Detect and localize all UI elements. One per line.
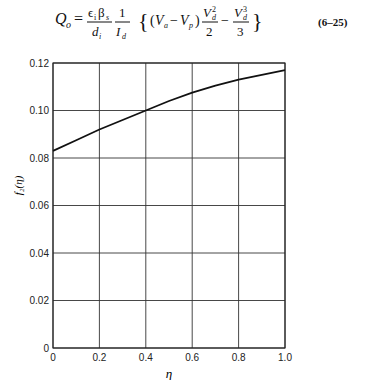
y-tick-label: 0 [43,343,49,354]
y-tick-label: 0.10 [30,105,50,116]
y-tick-label: 0.08 [30,153,50,164]
chart: 00.20.40.60.81.000.020.040.060.080.100.1… [0,0,369,380]
y-tick-label: 0.06 [30,200,50,211]
x-tick-label: 1.0 [278,352,292,363]
x-tick-label: 0 [50,352,56,363]
x-axis-label: η [166,366,172,380]
y-tick-label: 0.02 [30,295,50,306]
x-tick-label: 0.8 [232,352,246,363]
y-tick-label: 0.04 [30,248,50,259]
x-tick-label: 0.4 [139,352,153,363]
y-tick-label: 0.12 [30,58,50,69]
x-tick-label: 0.2 [92,352,106,363]
x-tick-label: 0.6 [185,352,199,363]
y-axis-label: f₂(η) [12,175,25,195]
